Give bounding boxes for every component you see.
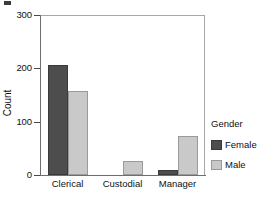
bar-clerical-female (48, 65, 68, 175)
legend-label-female: Female (225, 139, 257, 150)
legend-swatch-female-icon (211, 140, 222, 150)
bar-custodial-male (123, 161, 143, 175)
bar-manager-female (158, 170, 178, 175)
bar-chart: 3002001000 Count ClericalCustodialManage… (0, 0, 260, 206)
bar-clerical-male (68, 91, 88, 175)
legend-title: Gender (211, 118, 260, 129)
x-axis-tick-label: Custodial (93, 178, 153, 190)
legend-label-male: Male (225, 159, 246, 170)
legend: Gender Female Male (211, 118, 260, 179)
x-axis-tick-label: Manager (148, 178, 208, 190)
legend-item-female[interactable]: Female (211, 139, 260, 150)
legend-swatch-male-icon (211, 160, 222, 170)
bar-manager-male (178, 136, 198, 175)
legend-item-male[interactable]: Male (211, 159, 260, 170)
x-axis-tick-label: Clerical (38, 178, 98, 190)
